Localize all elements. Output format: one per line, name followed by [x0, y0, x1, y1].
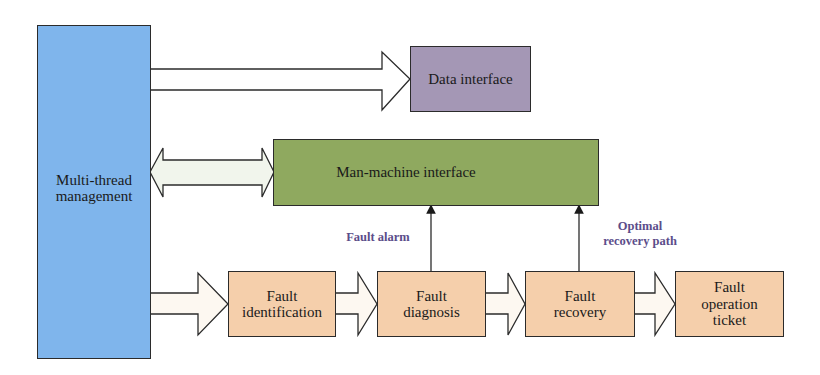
- multi-thread-management-box: Multi-thread management: [37, 25, 151, 359]
- arrow-to-data-interface: [150, 52, 410, 110]
- man-machine-interface-box: Man-machine interface: [273, 139, 599, 206]
- fault-diagnosis-line1: Fault: [416, 288, 447, 305]
- fault-ticket-line3: ticket: [713, 312, 746, 329]
- double-arrow-man-machine: [150, 148, 274, 197]
- multi-thread-line1: Multi-thread: [56, 172, 132, 189]
- fault-identification-line2: identification: [242, 304, 322, 321]
- fault-recovery-box: Fault recovery: [525, 271, 635, 337]
- fault-alarm-label: Fault alarm: [328, 230, 428, 245]
- fault-diagnosis-box: Fault diagnosis: [377, 271, 486, 337]
- arrow-to-fault-identification: [150, 273, 228, 335]
- arrow-identification-to-diagnosis: [335, 273, 377, 335]
- fault-recovery-line1: Fault: [565, 288, 596, 305]
- optimal-line1: Optimal: [590, 219, 690, 234]
- fault-ticket-line1: Fault: [714, 279, 745, 296]
- man-machine-label: Man-machine interface: [336, 164, 476, 181]
- fault-identification-line1: Fault: [267, 288, 298, 305]
- data-interface-label: Data interface: [428, 71, 513, 88]
- multi-thread-line2: management: [56, 188, 133, 205]
- arrow-diagnosis-to-recovery: [485, 273, 525, 335]
- arrow-recovery-to-ticket: [634, 273, 675, 335]
- fault-recovery-line2: recovery: [554, 304, 606, 321]
- fault-identification-box: Fault identification: [228, 271, 336, 337]
- data-interface-box: Data interface: [410, 46, 531, 112]
- fault-operation-ticket-box: Fault operation ticket: [675, 271, 784, 337]
- fault-diagnosis-line2: diagnosis: [403, 304, 460, 321]
- optimal-recovery-path-label: Optimal recovery path: [590, 219, 690, 249]
- optimal-line2: recovery path: [590, 234, 690, 249]
- fault-ticket-line2: operation: [701, 296, 758, 313]
